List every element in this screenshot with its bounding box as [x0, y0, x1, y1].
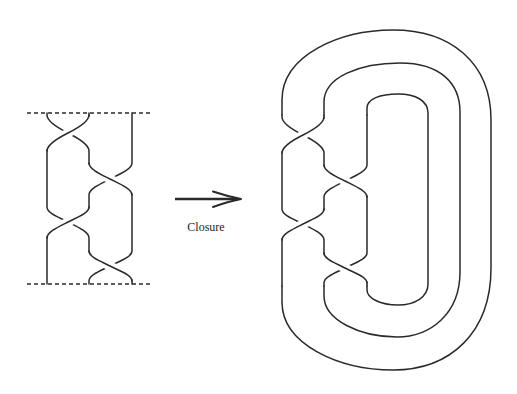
- figure-svg: Closure: [0, 0, 517, 394]
- closure-arcs: [282, 30, 491, 370]
- braid-closure-figure: Closure: [0, 0, 517, 394]
- braid-diagram: [27, 113, 152, 284]
- closed-braid-diagram: [282, 30, 491, 370]
- closure-label: Closure: [187, 220, 224, 234]
- closure-arc-inner: [367, 94, 428, 305]
- closure-arc-middle: [324, 63, 460, 337]
- closed-braid-strands: [282, 115, 367, 286]
- closure-arrow: [175, 192, 241, 208]
